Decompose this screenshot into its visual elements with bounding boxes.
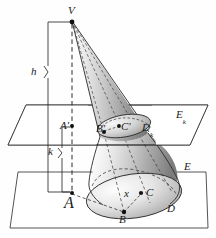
label-A-prime-letter: A (60, 119, 67, 131)
dot-A-prime (70, 124, 74, 128)
label-point-A-prime: A′ (60, 116, 69, 132)
label-B-prime-letter: B (96, 122, 103, 134)
label-point-A: A (64, 195, 74, 211)
label-apex-V: V (68, 5, 75, 16)
label-disk-Dk: Dk (142, 118, 153, 137)
dot-C (139, 191, 143, 195)
label-point-C: C (146, 187, 153, 198)
bracket-h-tick (44, 66, 48, 78)
label-point-B: B (119, 214, 126, 225)
label-Dk-letter: D (142, 121, 150, 133)
label-plane-Ek: Ek (176, 105, 186, 124)
plane-upper-mask-left (8, 105, 96, 145)
label-height-h: h (31, 66, 37, 77)
label-Ek-subscript: k (183, 118, 186, 126)
label-height-k: k (48, 146, 53, 157)
bracket-h-top (48, 22, 70, 66)
label-point-C-prime: C′ (121, 117, 131, 133)
label-plane-E: E (184, 161, 191, 172)
label-radius-x: x (124, 188, 129, 199)
label-Ek-letter: E (176, 108, 183, 120)
label-point-B-prime: B′ (96, 119, 105, 135)
label-Dk-subscript: k (150, 131, 153, 139)
dot-V (70, 20, 75, 25)
bracket-k-tick (58, 148, 62, 158)
label-B-prime-mark: ′ (103, 122, 105, 134)
geometry-figure: V h k A′ A B′ C′ B C x Dk D Ek E (0, 0, 216, 238)
label-A-prime-mark: ′ (67, 119, 69, 131)
label-disk-D: D (167, 203, 175, 214)
label-C-prime-mark: ′ (128, 120, 130, 132)
